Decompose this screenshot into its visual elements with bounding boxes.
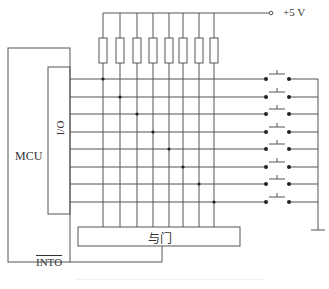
junction-dots [101,77,215,203]
push-button-icons [269,70,285,197]
switch-outputs [289,79,318,202]
io-port-block [48,67,70,214]
resistor-icons [99,38,218,63]
supply-terminal-icon [269,11,273,15]
faint-caption-line [75,279,265,280]
supply-voltage-label: +5 V [283,6,305,18]
and-gate-label: 与门 [148,229,172,246]
io-rows [70,79,265,202]
io-label: I/O [54,121,66,136]
mcu-label: MCU [15,149,42,164]
interrupt-pin-label: INTO [36,256,62,268]
interrupt-line [70,246,162,262]
